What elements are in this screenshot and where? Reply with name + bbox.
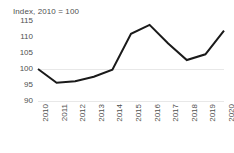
y-axis: 1151101051009590 (0, 0, 36, 153)
x-tick-label-2010: 2010 (42, 104, 50, 122)
line-series (38, 21, 224, 101)
x-tick-label-2011: 2011 (61, 104, 69, 121)
y-tick-label-100: 100 (20, 65, 33, 73)
y-tick-label-90: 90 (24, 97, 33, 105)
x-tick-label-2014: 2014 (116, 104, 124, 122)
gridline-90 (38, 101, 224, 102)
x-tick-label-2020: 2020 (228, 104, 234, 122)
y-tick-label-105: 105 (20, 49, 33, 57)
y-tick-label-110: 110 (20, 33, 33, 41)
x-tick-label-2013: 2013 (98, 104, 106, 122)
plot-area (38, 21, 224, 101)
x-tick-label-2018: 2018 (191, 104, 199, 122)
chart-container: Index, 2010 = 100 1151101051009590 20102… (0, 0, 234, 153)
series-polyline (38, 25, 224, 83)
y-tick-label-95: 95 (24, 81, 33, 89)
x-axis: 2010201120122013201420152016201720182019… (38, 104, 224, 150)
x-tick-label-2015: 2015 (135, 104, 143, 122)
x-tick-label-2017: 2017 (172, 104, 180, 122)
x-tick-label-2012: 2012 (79, 104, 87, 122)
x-tick-label-2016: 2016 (154, 104, 162, 122)
y-tick-label-115: 115 (20, 17, 33, 25)
x-tick-label-2019: 2019 (209, 104, 217, 122)
